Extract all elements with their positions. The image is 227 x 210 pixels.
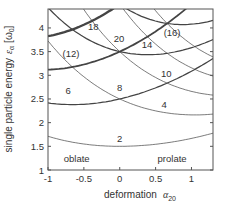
energy-level-curve (48, 0, 213, 2)
energy-level-curve (48, 0, 213, 3)
y-axis-label: single particle energyεα[ω0] (3, 25, 15, 152)
curve-label: 10 (161, 68, 172, 79)
curve-label: oblate (64, 153, 90, 164)
curve-label: 20 (114, 33, 125, 44)
y-tick-label: 4 (39, 22, 44, 33)
curve-label: 2 (117, 133, 122, 144)
curve-label: 4 (162, 99, 167, 110)
energy-level-curve (48, 133, 213, 146)
x-tick-label: -1 (44, 173, 52, 184)
curve-label: 8 (117, 82, 122, 93)
x-axis-label: deformationα20 (104, 189, 176, 202)
y-tick-label: 1.5 (31, 141, 44, 152)
y-tick-label: 1 (39, 165, 44, 176)
curve-label: prolate (158, 153, 187, 164)
x-tick-label: 0.5 (149, 173, 162, 184)
energy-level-curve (48, 0, 213, 25)
y-tick-label: 3.5 (31, 46, 44, 57)
energy-level-curve (48, 0, 213, 4)
nilsson-chart: 246810(12)14(16)1820oblateprolate -1-0.5… (0, 0, 227, 210)
x-tick-label: 1 (189, 173, 194, 184)
y-tick-label: 3 (39, 70, 44, 81)
curve-label: 6 (65, 85, 70, 96)
energy-level-curves (48, 0, 213, 146)
curve-label: 14 (142, 39, 153, 50)
curve-label: (16) (164, 27, 181, 38)
x-tick-label: -0.5 (76, 173, 92, 184)
y-tick-label: 2.5 (31, 93, 44, 104)
x-tick-label: 0 (117, 173, 122, 184)
energy-level-curve (48, 59, 213, 105)
curve-label: 18 (88, 21, 99, 32)
y-tick-label: 2 (39, 117, 44, 128)
curve-label: (12) (63, 48, 80, 59)
